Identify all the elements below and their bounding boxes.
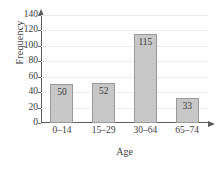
x-axis-title: Age xyxy=(41,146,208,157)
bar: 115 xyxy=(134,34,157,123)
y-axis-tick-label: 140 xyxy=(24,10,38,20)
y-axis-tick-label: 60 xyxy=(29,72,39,82)
y-axis-tick-label: 40 xyxy=(29,87,39,97)
y-axis-tick-label: 120 xyxy=(24,26,38,36)
x-axis-tick-label: 30–64 xyxy=(134,126,158,136)
gridline xyxy=(41,77,208,78)
bar-value-label: 52 xyxy=(93,87,114,97)
y-axis-tick-label: 80 xyxy=(29,57,39,67)
y-axis-tick-mark xyxy=(38,30,41,31)
bar-chart: Frequency 020406080100120140 505211533 A… xyxy=(0,0,219,172)
y-axis-tick-mark xyxy=(38,108,41,109)
bar: 52 xyxy=(92,83,115,123)
plot-area: 505211533 xyxy=(41,15,208,123)
y-axis-tick-mark xyxy=(38,92,41,93)
bar-value-label: 115 xyxy=(135,38,156,48)
x-axis-tick-label: 15–29 xyxy=(92,126,116,136)
gridline xyxy=(41,15,208,16)
bar: 50 xyxy=(50,84,73,123)
gridline xyxy=(41,30,208,31)
y-axis-tick-mark xyxy=(38,46,41,47)
bar-value-label: 33 xyxy=(177,102,198,112)
y-axis-tick-mark xyxy=(38,61,41,62)
y-axis-tick-mark xyxy=(38,123,41,124)
gridline xyxy=(41,61,208,62)
y-axis-tick-mark xyxy=(38,77,41,78)
y-axis-tick-label: 100 xyxy=(24,41,38,51)
x-axis-arrow-icon xyxy=(208,121,215,127)
bar: 33 xyxy=(176,98,199,123)
y-axis-tick-label: 20 xyxy=(29,103,39,113)
y-axis-tick-mark xyxy=(38,15,41,16)
gridline xyxy=(41,46,208,47)
bar-value-label: 50 xyxy=(51,88,72,98)
x-axis-tick-label: 0–14 xyxy=(52,126,71,136)
y-axis-tick-labels: 020406080100120140 xyxy=(14,15,38,123)
x-axis-tick-label: 65–74 xyxy=(175,126,199,136)
